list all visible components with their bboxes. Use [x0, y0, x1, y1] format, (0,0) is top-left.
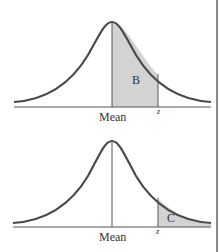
mean-label: Mean [99, 110, 126, 125]
z-label: z [157, 107, 160, 116]
panel-area-between-mean-and-z: B Mean z [0, 0, 221, 126]
region-label-c: C [167, 211, 175, 225]
shaded-region-b [112, 22, 158, 107]
mean-label: Mean [99, 230, 126, 245]
z-label: z [156, 227, 159, 236]
panel-area-beyond-z: C Mean z [0, 126, 221, 252]
normal-curve-b: B [0, 0, 221, 126]
region-label-b: B [132, 73, 140, 87]
